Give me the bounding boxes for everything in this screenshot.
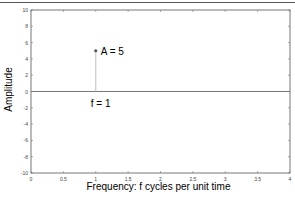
x-tick-label: 4: [289, 176, 292, 182]
x-tick-label: 3.5: [254, 176, 261, 182]
stem-series: [94, 49, 97, 91]
y-tick-label: 8: [25, 23, 28, 29]
frequency-annotation: f = 1: [91, 98, 111, 109]
y-tick-label: -4: [24, 121, 29, 127]
y-tick-label: -10: [21, 170, 28, 176]
y-tick-label: 4: [25, 56, 28, 62]
y-tick-label: -2: [24, 105, 29, 111]
y-tick-label: 0: [25, 89, 28, 95]
y-tick-label: 10: [22, 7, 28, 13]
stem-chart: -10-8-6-4-20246810 00.511.522.533.54 A =…: [0, 0, 295, 199]
y-axis-label: Amplitude: [3, 67, 14, 112]
y-tick-label: 2: [25, 72, 28, 78]
x-tick-label: 0.5: [60, 176, 67, 182]
y-tick-labels: -10-8-6-4-20246810: [21, 7, 28, 176]
amplitude-annotation: A = 5: [101, 46, 125, 57]
y-tick-label: -6: [24, 137, 29, 143]
y-tick-label: 6: [25, 40, 28, 46]
y-tick-label: -8: [24, 154, 29, 160]
x-axis-label: Frequency: f cycles per unit time: [87, 181, 231, 192]
stem-marker: [94, 49, 97, 52]
x-tick-label: 0: [30, 176, 33, 182]
